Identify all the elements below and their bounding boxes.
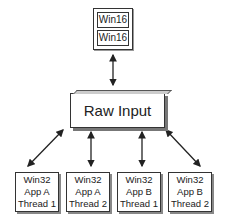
box-line-1: Win32 [16,174,58,186]
box-line-3: Thread 1 [16,198,58,210]
box-line-3: Thread 2 [169,198,211,210]
box-line-2: App B [169,186,211,198]
box-line-2: App A [16,186,58,198]
box-line-1: Win32 [118,174,160,186]
win32-app-b-thread-1: Win32 App B Thread 1 [117,172,161,212]
win32-app-a-thread-1: Win32 App A Thread 1 [15,172,59,212]
win16-box-1: Win16 [97,12,129,28]
arrow-rawinput-b2 [166,130,200,166]
win32-app-b-thread-2: Win32 App B Thread 2 [168,172,212,212]
win16-group: Win16 Win16 [93,8,133,50]
win32-app-a-thread-2: Win32 App A Thread 2 [66,172,110,212]
win16-box-2: Win16 [97,30,129,46]
box-line-1: Win32 [67,174,109,186]
box-line-3: Thread 2 [67,198,109,210]
raw-input-box: Raw Input [70,93,165,128]
box-line-2: App B [118,186,160,198]
arrow-rawinput-a1 [28,130,63,166]
box-line-1: Win32 [169,174,211,186]
box-line-3: Thread 1 [118,198,160,210]
box-line-2: App A [67,186,109,198]
